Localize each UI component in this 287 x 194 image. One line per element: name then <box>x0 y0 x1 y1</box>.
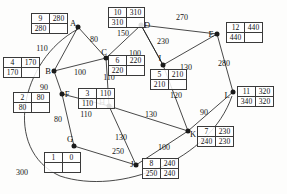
label-box-cell-L-1-1: 320 <box>256 97 274 107</box>
edge-weight-H-K: 130 <box>145 111 157 119</box>
label-box-row: 310 <box>109 18 145 28</box>
edge-weight-A-B: 110 <box>36 45 48 53</box>
label-box-row: 220 <box>109 66 145 76</box>
label-box-row: 12440 <box>227 23 263 33</box>
edge-weight-I-K: 120 <box>170 92 182 100</box>
graph-node-E[interactable] <box>215 32 220 37</box>
label-box-cell-K-1-0: 240 <box>198 137 216 147</box>
label-box-cell-A-0-0: 9 <box>32 14 50 24</box>
node-label-C: C <box>101 48 107 57</box>
label-box-cell-I-0-1: 210 <box>169 70 187 80</box>
label-box-cell-I-1-1 <box>169 80 187 90</box>
graph-node-B[interactable] <box>52 69 57 74</box>
node-label-J: J <box>130 160 133 169</box>
edge-weight-A-C: 80 <box>90 36 98 44</box>
node-label-box-I: 5210210 <box>150 69 187 90</box>
graph-edge-G-J <box>74 146 136 165</box>
label-box-row: 210 <box>151 80 187 90</box>
label-box-cell-F-1-0: 80 <box>14 103 32 113</box>
label-box-cell-L-0-0: 11 <box>238 87 256 97</box>
label-box-row: 80 <box>14 103 50 113</box>
node-label-L: L <box>224 91 229 100</box>
edge-weight-B-F: 90 <box>40 84 48 92</box>
node-label-box-D: 10310310 <box>108 7 145 28</box>
edge-weight-I-D: 230 <box>157 38 169 46</box>
graph-node-I[interactable] <box>161 63 166 68</box>
edge-weight-C-D: 150 <box>117 30 129 38</box>
graph-node-A[interactable] <box>76 25 81 30</box>
label-box-row: 6220 <box>109 56 145 66</box>
node-label-box-L: 11320340320 <box>237 86 274 107</box>
label-box-cell-J-0-1: 240 <box>161 159 179 169</box>
graph-node-G[interactable] <box>72 144 77 149</box>
label-box-row: 10310 <box>109 8 145 18</box>
label-box-cell-B-1-0: 170 <box>4 68 22 78</box>
node-label-box-C: 6220220 <box>108 55 145 76</box>
node-label-K: K <box>190 130 196 139</box>
edge-weight-H-J: 130 <box>115 134 127 142</box>
label-box-cell-F-0-0: 2 <box>14 93 32 103</box>
label-box-cell-J-0-0: 8 <box>143 159 161 169</box>
label-box-cell-E-0-0: 12 <box>227 23 245 33</box>
node-label-box-J: 8240250240 <box>142 158 179 179</box>
label-box-cell-K-0-1: 230 <box>216 127 234 137</box>
label-box-row: 110 <box>79 99 115 109</box>
node-label-G: G <box>67 135 73 144</box>
label-box-cell-H-1-0: 110 <box>79 99 97 109</box>
label-box-cell-D-1-0: 310 <box>109 18 127 28</box>
label-box-cell-D-1-1 <box>127 18 145 28</box>
graph-node-L[interactable] <box>231 90 236 95</box>
graph-edge-D-E <box>141 25 217 34</box>
label-box-row: 9280 <box>32 14 68 24</box>
node-label-E: E <box>208 30 213 39</box>
label-box-cell-K-1-1: 230 <box>216 137 234 147</box>
label-box-row: 8240 <box>143 159 179 169</box>
label-box-cell-J-1-0: 250 <box>143 169 161 179</box>
label-box-row: 280 <box>14 93 50 103</box>
label-box-row: 10 <box>45 153 81 163</box>
node-label-box-E: 12440440 <box>226 22 263 43</box>
node-label-box-G: 10 <box>44 152 81 173</box>
label-box-cell-L-1-0: 340 <box>238 97 256 107</box>
label-box-cell-G-1-0 <box>45 163 63 173</box>
label-box-row: 4170 <box>4 58 40 68</box>
label-box-row: 5210 <box>151 70 187 80</box>
label-box-cell-I-1-0: 210 <box>151 80 169 90</box>
node-label-I: I <box>159 54 162 63</box>
edge-weight-G-J: 250 <box>112 148 124 156</box>
label-box-cell-D-0-1: 310 <box>127 8 145 18</box>
node-label-box-F: 28080 <box>13 92 50 113</box>
label-box-cell-F-0-1: 80 <box>32 93 50 103</box>
edge-weight-K-L: 90 <box>200 109 208 117</box>
node-label-box-H: 3110110 <box>78 88 115 109</box>
node-label-F: F <box>65 90 70 99</box>
label-box-row <box>45 163 81 173</box>
label-box-cell-A-1-0: 280 <box>32 24 50 34</box>
edge-weight-B-C: 100 <box>74 69 86 77</box>
label-box-cell-C-1-0: 220 <box>109 66 127 76</box>
node-label-box-B: 4170170 <box>3 57 40 78</box>
node-label-B: B <box>45 67 51 76</box>
label-box-cell-A-0-1: 280 <box>50 14 68 24</box>
label-box-cell-B-1-1 <box>22 68 40 78</box>
label-box-cell-C-0-0: 6 <box>109 56 127 66</box>
label-box-row: 11320 <box>238 87 274 97</box>
label-box-cell-E-0-1: 440 <box>245 23 263 33</box>
edge-weight-F-H: 110 <box>80 111 92 119</box>
graph-node-J[interactable] <box>134 163 139 168</box>
label-box-cell-A-1-1 <box>50 24 68 34</box>
label-box-row: 280 <box>32 24 68 34</box>
label-box-row: 3110 <box>79 89 115 99</box>
label-box-cell-G-1-1 <box>63 163 81 173</box>
label-box-cell-I-0-0: 5 <box>151 70 169 80</box>
label-box-row: 170 <box>4 68 40 78</box>
label-box-row: 250240 <box>143 169 179 179</box>
label-box-row: 240230 <box>198 137 234 147</box>
label-box-cell-K-0-0: 7 <box>198 127 216 137</box>
label-box-cell-B-0-0: 4 <box>4 58 22 68</box>
label-box-cell-D-0-0: 10 <box>109 8 127 18</box>
label-box-cell-E-1-1 <box>245 33 263 43</box>
label-box-cell-C-0-1: 220 <box>127 56 145 66</box>
edge-weight-F-G: 80 <box>54 116 62 124</box>
label-box-cell-E-1-0: 440 <box>227 33 245 43</box>
